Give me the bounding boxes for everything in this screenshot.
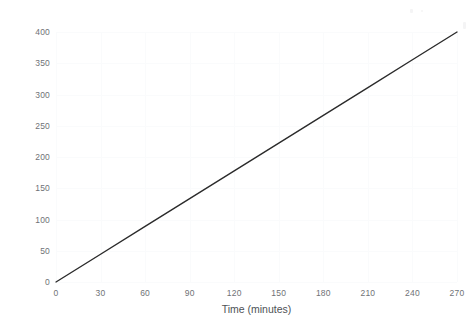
x-tick-label: 90 bbox=[185, 288, 195, 298]
y-axis-tick-labels: 050100150200250300350400 bbox=[0, 0, 50, 332]
x-tick-label: 0 bbox=[54, 288, 59, 298]
x-tick-label: 120 bbox=[227, 288, 242, 298]
grid-line-horizontal bbox=[56, 282, 457, 283]
plot-area bbox=[56, 32, 457, 282]
y-tick-label: 250 bbox=[35, 121, 50, 131]
scan-artifact bbox=[421, 10, 423, 12]
x-axis-label: Time (minutes) bbox=[56, 303, 457, 315]
y-tick-label: 350 bbox=[35, 58, 50, 68]
series-line-cost bbox=[56, 32, 457, 282]
x-tick-label: 180 bbox=[316, 288, 331, 298]
x-tick-label: 60 bbox=[140, 288, 150, 298]
y-tick-label: 200 bbox=[35, 152, 50, 162]
y-tick-label: 150 bbox=[35, 183, 50, 193]
x-tick-label: 210 bbox=[360, 288, 375, 298]
x-tick-label: 270 bbox=[450, 288, 465, 298]
y-tick-label: 0 bbox=[45, 277, 50, 287]
x-tick-label: 150 bbox=[271, 288, 286, 298]
scan-artifact bbox=[410, 9, 413, 13]
data-series-svg bbox=[56, 32, 457, 282]
y-tick-label: 100 bbox=[35, 215, 50, 225]
grid-line-vertical bbox=[457, 32, 458, 282]
x-tick-label: 30 bbox=[96, 288, 106, 298]
x-tick-label: 240 bbox=[405, 288, 420, 298]
y-tick-label: 300 bbox=[35, 90, 50, 100]
scan-artifact bbox=[463, 22, 466, 29]
chart-figure: 050100150200250300350400 030609012015018… bbox=[0, 0, 472, 332]
y-tick-label: 50 bbox=[40, 246, 50, 256]
y-tick-label: 400 bbox=[35, 27, 50, 37]
